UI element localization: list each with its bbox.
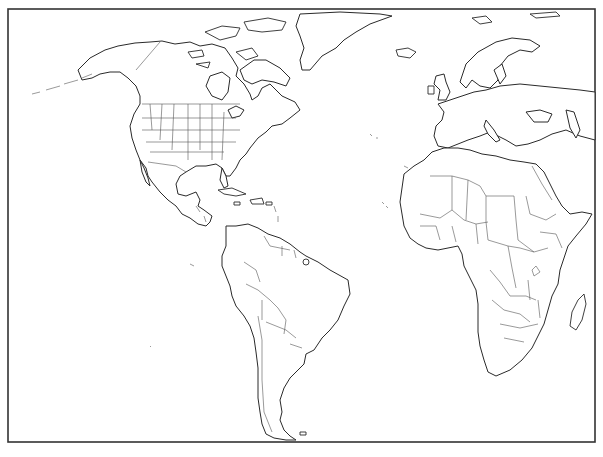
puerto-rico <box>266 202 272 205</box>
lake-titicaca-marker <box>303 259 309 265</box>
falkland-islands <box>300 432 306 435</box>
world-outline-map <box>0 0 603 457</box>
ireland <box>428 86 434 94</box>
jamaica <box>234 202 240 205</box>
